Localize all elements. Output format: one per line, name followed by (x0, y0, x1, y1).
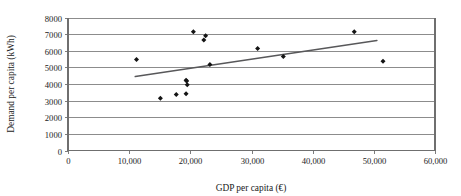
data-point (191, 29, 196, 34)
y-tick-label-6000: 6000 (45, 47, 62, 57)
y-tick-label-4000: 4000 (45, 80, 62, 90)
data-point (185, 82, 190, 87)
data-point (381, 59, 386, 64)
x-tick-label-50000: 50,000 (363, 156, 387, 166)
y-tick-label-2000: 2000 (45, 113, 62, 123)
y-axis-tick-labels: 010002000300040005000600070008000 (45, 14, 62, 157)
x-tick-label-30000: 30,000 (241, 156, 265, 166)
data-point (134, 57, 139, 62)
y-gridlines (68, 19, 435, 135)
scatter-chart: 010002000300040005000600070008000 010,00… (0, 0, 461, 196)
data-points (134, 29, 386, 101)
y-tick-label-5000: 5000 (45, 63, 62, 73)
x-tick-label-20000: 20,000 (179, 156, 203, 166)
data-point (158, 96, 163, 101)
chart-canvas: 010002000300040005000600070008000 010,00… (0, 0, 461, 196)
x-tick-label-10000: 10,000 (118, 156, 142, 166)
x-tick-label-60000: 60,000 (424, 156, 448, 166)
x-tick-label-40000: 40,000 (302, 156, 326, 166)
x-axis-title: GDP per capita (€) (216, 183, 287, 194)
y-tick-label-7000: 7000 (45, 30, 62, 40)
data-point (174, 92, 179, 97)
data-point (255, 46, 260, 51)
x-axis-tick-labels: 010,00020,00030,00040,00050,00060,000 (66, 156, 447, 166)
y-axis-title: Demand per capita (kWh) (6, 35, 17, 133)
y-tick-label-8000: 8000 (45, 14, 62, 24)
x-tick-label-0: 0 (66, 156, 70, 166)
data-point (184, 91, 189, 96)
trend-line (135, 40, 377, 76)
y-tick-label-3000: 3000 (45, 97, 62, 107)
y-tick-label-1000: 1000 (45, 130, 62, 140)
y-tick-label-0: 0 (58, 147, 62, 157)
data-point (352, 29, 357, 34)
